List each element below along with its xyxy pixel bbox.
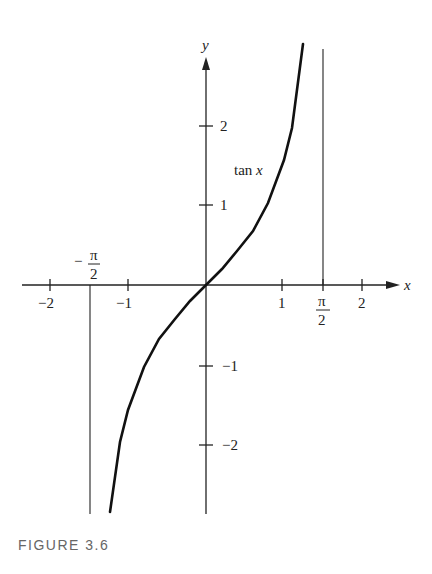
svg-text:2: 2 [90, 266, 98, 282]
tan-chart: y x −2 −1 1 2 π 2 − π 2 2 1 −1 −2 tan x [0, 0, 432, 574]
y-tick-label-neg1: −1 [222, 358, 238, 374]
svg-text:2: 2 [318, 312, 326, 328]
y-tick-label-neg2: −2 [222, 437, 238, 453]
pi-half-label: π 2 [316, 293, 330, 328]
y-tick-label-2: 2 [220, 118, 228, 134]
curve-label: tan x [234, 162, 263, 178]
x-tick-label-neg1: −1 [116, 295, 132, 311]
x-tick-label-2: 2 [358, 295, 366, 311]
svg-text:π: π [318, 293, 326, 309]
svg-text:π: π [90, 247, 98, 263]
neg-pi-half-label: − π 2 [74, 247, 100, 282]
x-tick-label-1: 1 [278, 295, 286, 311]
figure-caption: FIGURE 3.6 [18, 537, 109, 553]
x-axis-label: x [403, 277, 411, 293]
x-axis-arrow-icon [386, 281, 400, 289]
y-axis-arrow-icon [202, 57, 210, 70]
x-tick-label-neg2: −2 [38, 295, 54, 311]
y-axis-label: y [200, 37, 209, 53]
svg-text:−: − [74, 253, 82, 269]
y-tick-label-1: 1 [220, 197, 228, 213]
